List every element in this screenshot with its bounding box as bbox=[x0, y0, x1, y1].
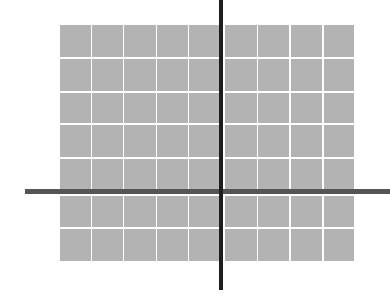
grid-cell bbox=[225, 93, 257, 123]
grid-cell bbox=[92, 93, 123, 123]
grid-cell bbox=[189, 59, 220, 91]
grid-cell bbox=[124, 93, 156, 123]
grid-cell bbox=[324, 159, 354, 189]
grid-cell bbox=[124, 59, 156, 91]
grid-cell bbox=[189, 196, 220, 227]
grid-cell bbox=[291, 125, 322, 157]
grid-cell bbox=[258, 59, 289, 91]
grid-cell bbox=[157, 93, 188, 123]
grid-cell bbox=[157, 159, 188, 189]
grid-cell bbox=[92, 229, 123, 261]
grid-cell bbox=[60, 229, 91, 261]
grid-cell bbox=[258, 93, 289, 123]
grid-cell bbox=[189, 25, 220, 57]
grid-cell bbox=[225, 196, 257, 227]
grid-cell bbox=[258, 25, 289, 57]
grid-diagram bbox=[0, 0, 390, 306]
grid-cell bbox=[189, 93, 220, 123]
grid-cell bbox=[225, 159, 257, 189]
grid-cell bbox=[291, 59, 322, 91]
grid-cell bbox=[60, 25, 91, 57]
grid-cell bbox=[225, 59, 257, 91]
grid-cell bbox=[124, 25, 156, 57]
grid-cell bbox=[291, 159, 322, 189]
grid-cell bbox=[324, 59, 354, 91]
grid-cell bbox=[258, 196, 289, 227]
grid-cell bbox=[189, 229, 220, 261]
grid-cell bbox=[92, 59, 123, 91]
grid-cell bbox=[291, 25, 322, 57]
grid-cell bbox=[324, 196, 354, 227]
grid-cell bbox=[324, 25, 354, 57]
grid-cell bbox=[189, 125, 220, 157]
grid-cell bbox=[92, 196, 123, 227]
grid-cell bbox=[324, 229, 354, 261]
grid-cell bbox=[225, 125, 257, 157]
horizontal-axis-line bbox=[25, 189, 390, 194]
grid-cell bbox=[291, 196, 322, 227]
grid-cell bbox=[157, 125, 188, 157]
grid-cell bbox=[124, 196, 156, 227]
grid-cell bbox=[60, 159, 91, 189]
grid-cell bbox=[124, 229, 156, 261]
grid-cell bbox=[189, 159, 220, 189]
grid-cell bbox=[157, 59, 188, 91]
grid-cell bbox=[124, 159, 156, 189]
grid-cell bbox=[157, 25, 188, 57]
grid-cell bbox=[157, 196, 188, 227]
grid-cell bbox=[157, 229, 188, 261]
grid-cell bbox=[92, 25, 123, 57]
grid-cell bbox=[258, 229, 289, 261]
grid-cell bbox=[60, 93, 91, 123]
grid-cell bbox=[60, 59, 91, 91]
grid-cell bbox=[258, 159, 289, 189]
vertical-axis-line bbox=[219, 0, 223, 290]
grid-cell bbox=[258, 125, 289, 157]
grid-cell bbox=[324, 93, 354, 123]
grid-cell bbox=[225, 25, 257, 57]
grid-cell bbox=[291, 229, 322, 261]
grid-cell bbox=[92, 159, 123, 189]
grid-cell bbox=[324, 125, 354, 157]
grid-cell bbox=[60, 196, 91, 227]
grid-cell bbox=[291, 93, 322, 123]
grid-cell bbox=[124, 125, 156, 157]
grid-cell bbox=[225, 229, 257, 261]
grid-cell bbox=[60, 125, 91, 157]
grid-cell bbox=[92, 125, 123, 157]
